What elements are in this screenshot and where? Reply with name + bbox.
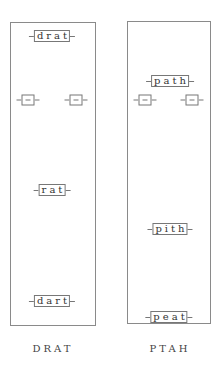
node-label: rat	[39, 184, 66, 196]
node-peat: peat	[145, 311, 192, 323]
connector-stub	[188, 317, 193, 318]
connector-stub	[65, 190, 70, 191]
connector-stub	[70, 301, 75, 302]
empty-slot-box	[70, 95, 83, 106]
node-label: pith	[152, 223, 187, 235]
connector-stub	[35, 100, 40, 101]
connector-stub	[188, 229, 193, 230]
empty-slot-box	[186, 95, 199, 106]
node-empty-left	[134, 95, 157, 106]
panel-ptah	[127, 21, 211, 324]
node-empty-right	[181, 95, 204, 106]
node-label: path	[151, 75, 189, 87]
node-label: drat	[34, 30, 70, 42]
node-label: dart	[34, 295, 70, 307]
empty-slot-box	[139, 95, 152, 106]
node-rat: rat	[34, 184, 71, 196]
connector-stub	[189, 81, 194, 82]
connector-stub	[83, 100, 88, 101]
node-path: path	[146, 75, 194, 87]
node-drat: drat	[29, 30, 75, 42]
connector-stub	[70, 36, 75, 37]
node-empty-left	[17, 95, 40, 106]
node-empty-right	[65, 95, 88, 106]
node-pith: pith	[147, 223, 192, 235]
connector-stub	[199, 100, 204, 101]
panel-caption-ptah: PTAH	[150, 343, 191, 354]
empty-slot-box	[22, 95, 35, 106]
panel-drat	[10, 22, 96, 326]
node-label: peat	[150, 311, 187, 323]
node-dart: dart	[29, 295, 75, 307]
connector-stub	[152, 100, 157, 101]
panel-caption-drat: DRAT	[33, 343, 74, 354]
